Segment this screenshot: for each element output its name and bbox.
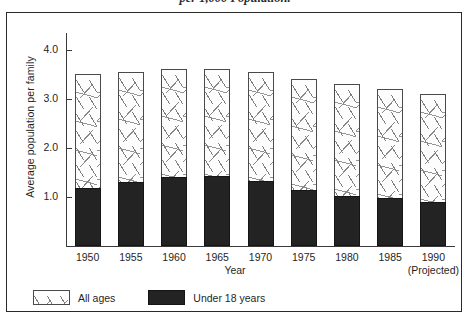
bar-segment-under-18 <box>161 177 187 246</box>
legend-entry: Under 18 years <box>148 290 265 305</box>
legend-swatch-all-ages <box>33 290 70 305</box>
legend-label: Under 18 years <box>193 292 265 304</box>
x-tick-label: 1990 <box>403 251 463 263</box>
bar-segment-under-18 <box>334 196 360 246</box>
plot-area: Average population per family 1.02.03.04… <box>7 13 463 313</box>
y-tick-label: 3.0 <box>24 92 58 104</box>
legend-swatch-under-18 <box>148 290 185 305</box>
bar-segment-under-18 <box>377 198 403 246</box>
y-axis-title: Average population per family <box>24 42 36 212</box>
bar-segment-under-18 <box>75 188 101 246</box>
y-tick-label: 4.0 <box>24 43 58 55</box>
legend-entry: All ages <box>33 290 115 305</box>
y-axis-line <box>66 33 67 246</box>
bar-segment-under-18 <box>204 176 230 246</box>
caption-strip: per 1,000 Population. <box>0 0 470 11</box>
chart-legend: All agesUnder 18 years <box>33 290 265 305</box>
chart-frame: Average population per family 1.02.03.04… <box>6 12 462 312</box>
figure-caption: per 1,000 Population. <box>0 0 470 6</box>
x-axis-line <box>66 246 455 247</box>
y-tick-label: 2.0 <box>24 141 58 153</box>
y-tick-label: 1.0 <box>24 190 58 202</box>
x-axis-title: Year <box>7 264 463 276</box>
legend-label: All ages <box>78 292 115 304</box>
bar-segment-under-18 <box>118 182 144 246</box>
bar-segment-under-18 <box>291 190 317 246</box>
bar-segment-under-18 <box>248 181 274 246</box>
bar-segment-under-18 <box>420 202 446 246</box>
